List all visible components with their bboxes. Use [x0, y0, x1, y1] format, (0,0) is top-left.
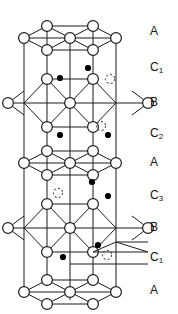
layer-label-base: A: [150, 155, 158, 169]
layer-label-base: C: [150, 60, 159, 74]
interstitial-layer-C1-upper: [57, 65, 115, 84]
layer-B-upper: [8, 79, 148, 127]
layer-label-sub: 1: [159, 66, 163, 75]
atom-open-circle: [42, 45, 53, 56]
atom-open-circle: [88, 170, 99, 181]
layer-label-a-2: A: [150, 156, 158, 168]
vacancy-dashed-circle: [105, 74, 114, 83]
atom-open-circle: [88, 199, 99, 210]
atom-open-circle: [19, 158, 30, 169]
atom-open-circle: [42, 146, 53, 157]
interstitial-filled-dot: [89, 179, 95, 185]
atom-open-circle: [42, 275, 53, 286]
atom-open-circle: [88, 74, 99, 85]
interstitial-filled-dot: [60, 254, 66, 260]
atom-open-circle: [111, 33, 122, 44]
vacancy-dashed-circle: [53, 188, 62, 197]
interstitial-layer-C3: [53, 179, 111, 199]
layer-label-c2-1: C2: [150, 127, 163, 139]
layer-label-b-1: B: [150, 96, 158, 108]
atom-open-circle: [65, 223, 76, 234]
layer-label-base: C: [150, 188, 159, 202]
layer-label-a-3: A: [150, 284, 158, 296]
interstitial-filled-dot: [57, 75, 63, 81]
layer-label-b-2: B: [150, 221, 158, 233]
atom-open-circle: [88, 45, 99, 56]
interstitial-layer-C2: [57, 121, 111, 138]
atom-open-circle: [42, 170, 53, 181]
atom-open-circle: [88, 275, 99, 286]
atom-open-circle: [111, 158, 122, 169]
layer-label-c1-1: C1: [150, 61, 163, 73]
atom-open-circle: [42, 299, 53, 310]
layer-label-a-1: A: [150, 25, 158, 37]
atom-open-circle: [19, 33, 30, 44]
layer-label-base: A: [150, 24, 158, 38]
atom-open-circle: [65, 287, 76, 298]
atom-open-circle: [88, 21, 99, 32]
interstitial-filled-dot: [95, 242, 101, 248]
layer-label-base: A: [150, 283, 158, 297]
atom-open-circle: [65, 33, 76, 44]
atom-open-circle: [42, 199, 53, 210]
layer-B-lower: [8, 204, 148, 252]
atom-open-circle: [42, 122, 53, 133]
atom-open-circle: [42, 21, 53, 32]
atom-open-circle: [65, 158, 76, 169]
crystal-structure-figure: A C1 B C2 A C3 B C1 A: [0, 0, 178, 314]
layer-label-sub: 1: [159, 256, 163, 265]
atom-open-circle: [88, 299, 99, 310]
atom-open-circle: [3, 98, 14, 109]
layer-label-sub: 2: [159, 132, 163, 141]
atom-open-circle: [88, 146, 99, 157]
atom-open-circle: [42, 247, 53, 258]
layer-label-base: C: [150, 250, 159, 264]
layer-label-base: B: [150, 95, 158, 109]
layer-label-c1-2: C1: [150, 251, 163, 263]
atom-open-circle: [42, 74, 53, 85]
layer-label-sub: 3: [159, 194, 163, 203]
layer-label-c3-1: C3: [150, 189, 163, 201]
interstitial-filled-dot: [105, 132, 111, 138]
interstitial-filled-dot: [105, 193, 111, 199]
layer-label-base: B: [150, 220, 158, 234]
atom-open-circle: [111, 287, 122, 298]
atom-open-circle: [65, 98, 76, 109]
atom-open-circle: [3, 223, 14, 234]
interstitial-filled-dot: [57, 132, 63, 138]
layer-label-base: C: [150, 126, 159, 140]
layer-label-column: A C1 B C2 A C3 B C1 A: [142, 0, 178, 314]
interstitial-layer-C1-lower: [60, 242, 148, 264]
atom-open-circle: [19, 287, 30, 298]
interstitial-filled-dot: [85, 65, 91, 71]
